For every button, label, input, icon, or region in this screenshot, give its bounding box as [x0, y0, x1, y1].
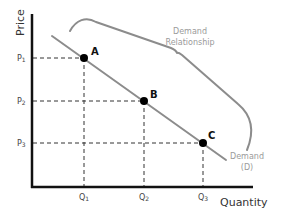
y-axis-title: Price	[14, 9, 27, 36]
x-axis-title: Quantity	[220, 196, 268, 209]
point-c	[199, 139, 207, 147]
guide-lines	[33, 58, 203, 186]
relationship-label-line2: Relationship	[165, 38, 214, 47]
tick-q2: Q2	[139, 193, 149, 202]
curve-label-line1: Demand	[230, 152, 264, 161]
tick-p3: P3	[17, 139, 26, 148]
point-b	[140, 97, 148, 105]
tick-q3: Q3	[198, 193, 208, 202]
tick-p1: P1	[17, 54, 26, 63]
demand-relationship-brace	[70, 19, 251, 150]
demand-diagram: A B C Price Quantity P1 P2 P3 Q1 Q2 Q3 D…	[0, 0, 282, 214]
tick-p2: P2	[17, 97, 26, 106]
tick-q1: Q1	[79, 193, 89, 202]
point-a	[80, 54, 88, 62]
point-b-label: B	[150, 89, 158, 100]
relationship-label-line1: Demand	[173, 27, 207, 36]
point-a-label: A	[91, 46, 99, 57]
curve-label-line2: (D)	[241, 163, 253, 172]
point-c-label: C	[208, 130, 215, 141]
